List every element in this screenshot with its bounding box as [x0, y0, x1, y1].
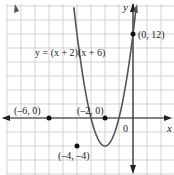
label-vertex: (–4, –4) — [58, 150, 90, 162]
origin-label: 0 — [123, 123, 128, 134]
point-y-intercept — [131, 32, 136, 37]
y-axis-label: y — [122, 1, 128, 13]
point-root-right — [103, 116, 108, 121]
curve-left-arrow-icon — [14, 4, 19, 13]
label-root-right: (–2, 0) — [77, 105, 104, 117]
point-vertex — [75, 144, 80, 149]
x-axis-left-arrow-icon — [2, 115, 10, 121]
parabola-graph: x y 0 y = (x + 2)(x + 6) (0, 12) (–6, 0)… — [0, 0, 174, 175]
x-axis-label: x — [166, 122, 172, 134]
equation-label: y = (x + 2)(x + 6) — [35, 47, 105, 59]
point-root-left — [47, 116, 52, 121]
y-axis-down-arrow-icon — [130, 165, 136, 174]
x-axis-right-arrow-icon — [164, 115, 172, 121]
axes: x y 0 — [2, 1, 172, 174]
label-root-left: (–6, 0) — [14, 105, 41, 117]
label-y-intercept: (0, 12) — [138, 29, 165, 41]
